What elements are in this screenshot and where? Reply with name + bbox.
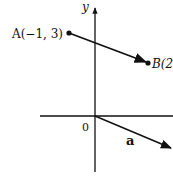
point-b-label: B(2 bbox=[151, 57, 173, 71]
vector-a-label: a bbox=[126, 133, 135, 148]
point-a-label: A(−1, 3) bbox=[11, 27, 63, 41]
point-b-dot bbox=[145, 60, 150, 65]
origin-label: 0 bbox=[82, 121, 89, 134]
y-axis-label: y bbox=[81, 0, 89, 14]
vector-diagram: y 0 A(−1, 3) B(2 a bbox=[0, 0, 173, 176]
point-a-dot bbox=[66, 30, 71, 35]
vector-ab bbox=[69, 33, 146, 62]
